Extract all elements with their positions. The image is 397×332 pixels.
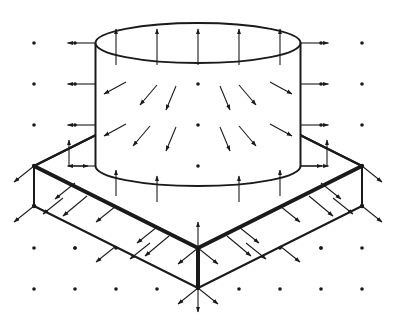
normal-arrow-icon bbox=[55, 183, 75, 199]
slab-back-left-visible bbox=[34, 135, 96, 166]
normal-arrow-icon bbox=[137, 227, 157, 243]
grid-dot bbox=[32, 287, 36, 291]
normal-arrow-icon bbox=[309, 196, 333, 216]
normal-arrow-icon bbox=[280, 206, 300, 222]
grid-dot bbox=[360, 246, 364, 250]
slab-back-right-visible bbox=[301, 135, 363, 166]
diagram-canvas bbox=[0, 0, 397, 332]
grid-dot bbox=[32, 246, 36, 250]
grid-dot bbox=[360, 287, 364, 291]
grid-dot bbox=[196, 164, 200, 168]
normal-arrow-icon bbox=[239, 227, 259, 243]
grid-dot bbox=[319, 287, 323, 291]
normal-arrow-icon bbox=[198, 248, 218, 264]
slab-bottom-left-edge bbox=[34, 206, 198, 288]
grid-dot bbox=[32, 82, 36, 86]
grid-dot bbox=[360, 123, 364, 127]
slab-bottom-right-edge bbox=[198, 206, 362, 288]
normal-arrow-icon bbox=[96, 246, 116, 262]
grid-dot bbox=[155, 287, 159, 291]
normal-arrow-icon bbox=[362, 206, 382, 222]
grid-dot bbox=[114, 287, 118, 291]
normal-arrow-icon bbox=[63, 196, 87, 216]
normal-arrow-icon bbox=[145, 236, 169, 256]
grid-dot bbox=[73, 246, 77, 250]
grid-dot bbox=[32, 123, 36, 127]
grid-dot bbox=[278, 287, 282, 291]
normal-arrow-icon bbox=[333, 198, 353, 214]
normal-arrow-icon bbox=[96, 206, 116, 222]
grid-dot bbox=[196, 123, 200, 127]
normal-arrow-icon bbox=[14, 166, 34, 182]
normal-arrow-icon bbox=[362, 166, 382, 182]
grid-dot bbox=[32, 41, 36, 45]
grid-dot bbox=[196, 82, 200, 86]
normal-arrow-icon bbox=[178, 248, 198, 264]
normal-arrow-icon bbox=[178, 288, 198, 304]
normal-arrow-icon bbox=[280, 246, 300, 262]
grid-dot bbox=[319, 246, 323, 250]
normal-arrow-icon bbox=[14, 206, 34, 222]
normal-arrow-icon bbox=[198, 288, 218, 304]
normal-arrow-icon bbox=[227, 236, 251, 256]
normal-arrow-icon bbox=[130, 243, 150, 259]
normal-arrow-icon bbox=[43, 198, 63, 214]
normal-arrow-icon bbox=[246, 243, 266, 259]
grid-dot bbox=[73, 287, 77, 291]
grid-dot bbox=[237, 287, 241, 291]
normal-arrow-icon bbox=[321, 183, 341, 199]
grid-dot bbox=[360, 82, 364, 86]
grid-dot bbox=[360, 41, 364, 45]
